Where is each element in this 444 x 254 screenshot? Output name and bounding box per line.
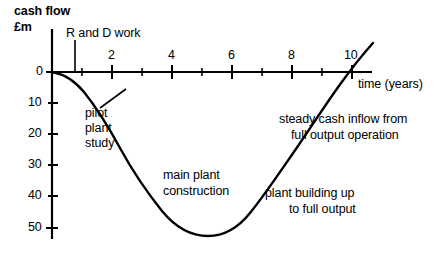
annotation-pilot-plant-study-line3: study bbox=[85, 136, 114, 151]
x-tick-label-10: 10 bbox=[344, 48, 358, 62]
x-axis-title: time (years) bbox=[358, 77, 423, 91]
y-tick-label-20: 20 bbox=[28, 126, 42, 140]
x-tick-label-4: 4 bbox=[168, 48, 175, 62]
annotation-r-and-d-work: R and D work bbox=[66, 26, 141, 41]
y-tick-label-0: 0 bbox=[36, 64, 43, 78]
y-tick-label-30: 30 bbox=[28, 157, 42, 171]
x-tick-label-8: 8 bbox=[288, 48, 295, 62]
cash-flow-chart-figure: cash flow £m time (years) 0 10 20 30 40 … bbox=[0, 0, 444, 254]
y-axis-title-line1: cash flow bbox=[14, 4, 70, 18]
annotation-pilot-plant-study-line1: pilot bbox=[85, 106, 107, 121]
y-axis-title-line2: £m bbox=[14, 20, 32, 34]
annotation-main-plant-construction-line1: main plant bbox=[163, 168, 220, 183]
x-tick-label-6: 6 bbox=[228, 48, 235, 62]
annotation-main-plant-construction-line2: construction bbox=[163, 184, 229, 199]
x-tick-label-2: 2 bbox=[108, 48, 115, 62]
annotation-plant-building-up-line1: plant building up bbox=[265, 186, 354, 201]
y-tick-label-40: 40 bbox=[28, 188, 42, 202]
y-tick-label-50: 50 bbox=[28, 220, 42, 234]
annotation-pilot-plant-study-line2: plant bbox=[85, 121, 112, 136]
annotation-steady-cash-inflow-line1: steady cash inflow from bbox=[279, 112, 407, 127]
annotation-plant-building-up-line2: to full output bbox=[289, 202, 356, 217]
annotation-steady-cash-inflow-line2: full output operation bbox=[291, 128, 399, 143]
y-tick-label-10: 10 bbox=[28, 95, 42, 109]
